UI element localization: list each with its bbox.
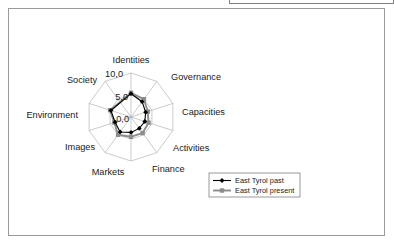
data-point-marker: [140, 131, 144, 135]
legend-marker-present: [220, 188, 224, 192]
axis-label-markets: Markets: [92, 167, 125, 177]
axis-label-finance: Finance: [152, 164, 185, 174]
radial-tick-0: 0,0: [116, 114, 129, 124]
data-point-marker: [129, 130, 134, 135]
radial-tick-10: 10,0: [105, 69, 123, 79]
data-point-marker: [146, 121, 150, 125]
axis-label-capacities: Capacities: [182, 107, 225, 117]
axis-label-environment: Environment: [26, 110, 78, 120]
axis-label-identities: Identities: [113, 55, 150, 65]
legend-label-past: East Tyrol past: [235, 176, 284, 185]
axis-label-images: Images: [65, 142, 96, 152]
radial-tick-5: 5,0: [115, 92, 128, 102]
axis-label-activities: Activities: [173, 143, 210, 153]
axis-label-governance: Governance: [171, 72, 221, 82]
legend: East Tyrol past East Tyrol present: [209, 173, 300, 197]
axis-label-society: Society: [67, 75, 98, 85]
data-point-marker: [129, 135, 133, 139]
legend-label-present: East Tyrol present: [235, 186, 294, 195]
